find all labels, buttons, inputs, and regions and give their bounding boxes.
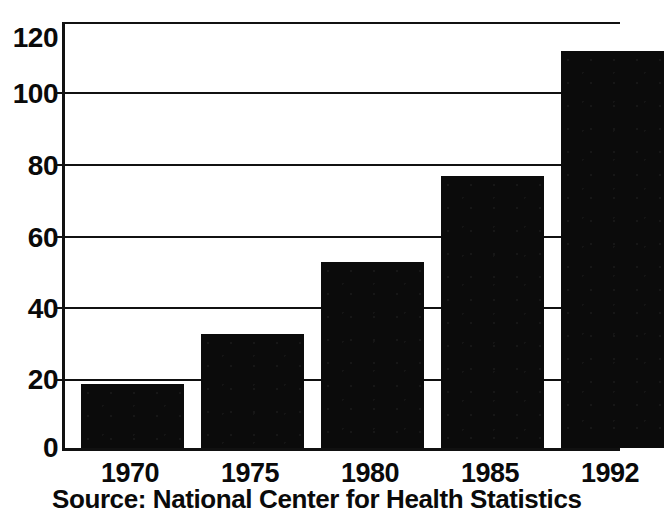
y-axis-label-0: 0 bbox=[0, 432, 58, 464]
gridline-100 bbox=[65, 92, 620, 94]
bar-1992 bbox=[561, 51, 664, 448]
y-axis-label-80: 80 bbox=[0, 150, 58, 182]
bar-1985 bbox=[441, 176, 544, 448]
bar-1975 bbox=[201, 334, 304, 448]
y-axis-label-40: 40 bbox=[0, 293, 58, 325]
y-axis-label-20: 20 bbox=[0, 364, 58, 396]
plot-area bbox=[62, 22, 620, 451]
bar-1980 bbox=[321, 262, 424, 448]
bar-1970 bbox=[81, 384, 184, 448]
y-axis-label-120: 120 bbox=[0, 22, 58, 54]
gridline-80 bbox=[65, 164, 620, 166]
y-axis-label-100: 100 bbox=[0, 78, 58, 110]
source-note: Source: National Center for Health Stati… bbox=[52, 484, 582, 513]
y-axis-label-60: 60 bbox=[0, 222, 58, 254]
